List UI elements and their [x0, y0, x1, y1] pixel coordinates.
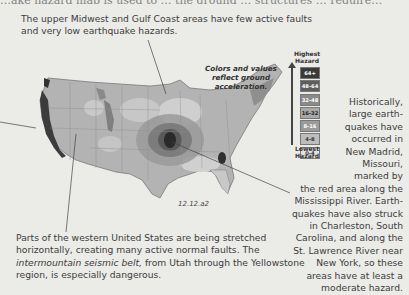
term-intermountain-seismic-belt: intermountain seismic belt, [16, 257, 142, 268]
caption-western-us: Parts of the western United States are b… [16, 232, 306, 282]
